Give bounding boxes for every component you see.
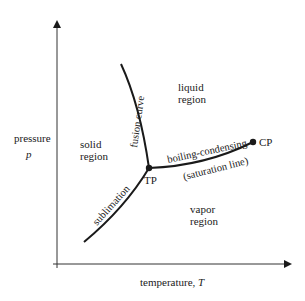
y-axis-label: pressure (14, 132, 51, 144)
critical-point-label: CP (259, 136, 272, 148)
x-axis-label: temperature, T (140, 276, 205, 288)
triple-point-label: TP (144, 174, 157, 186)
vapor-region-label: vapor (190, 203, 215, 215)
phase-diagram: pressure p temperature, T solid region l… (0, 0, 305, 301)
liquid-region-label: liquid (178, 81, 204, 93)
vapor-region-label-2: region (190, 215, 219, 227)
critical-point-marker (250, 139, 256, 145)
y-axis-symbol: p (25, 148, 32, 160)
solid-region-label-2: region (80, 150, 109, 162)
liquid-region-label-2: region (178, 93, 207, 105)
triple-point-marker (146, 165, 152, 171)
solid-region-label: solid (80, 138, 102, 150)
sublimation-label: sublimation (90, 183, 132, 228)
